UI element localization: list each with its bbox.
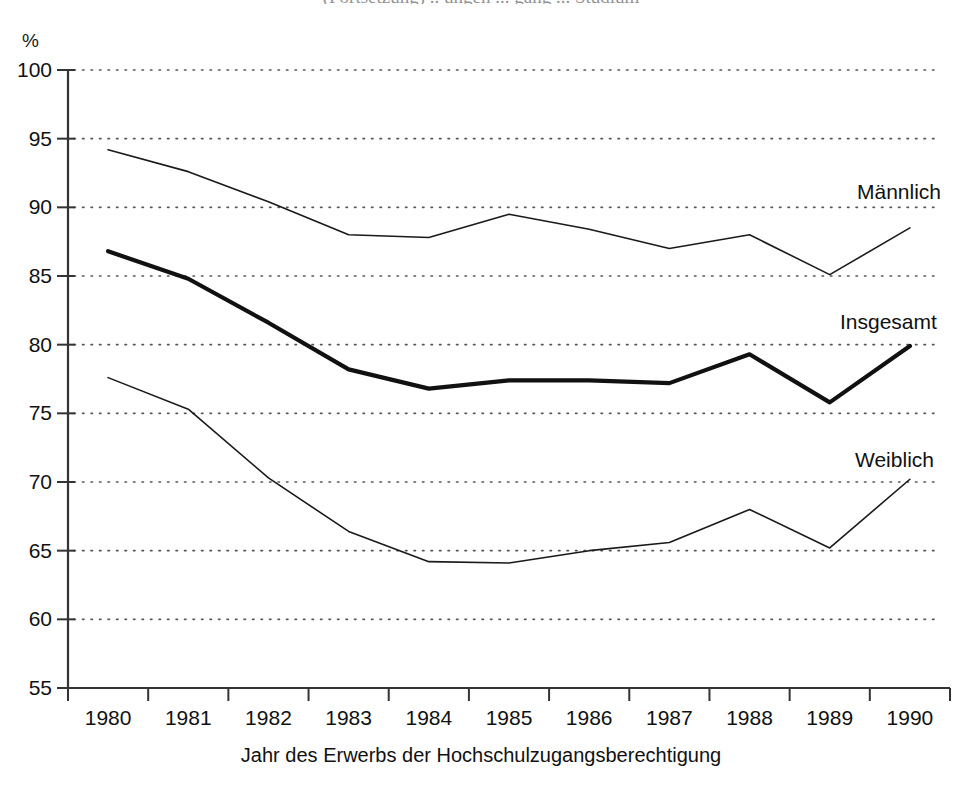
y-tick-label: 95 [0,128,52,149]
y-tick-marks-group [57,70,75,688]
y-tick-label: 60 [0,608,52,629]
x-axis-title: Jahr des Erwerbs der Hochschulzugangsber… [0,744,962,767]
y-tick-label: 100 [0,59,52,80]
y-tick-label: 55 [0,677,52,698]
x-tick-label: 1984 [389,707,469,728]
x-tick-label: 1986 [549,707,629,728]
series-label-mannlich: Männlich [857,180,941,204]
series-label-weiblich: Weiblich [855,448,934,472]
x-tick-label: 1989 [790,707,870,728]
x-tick-label: 1985 [469,707,549,728]
series-line-weiblich [108,378,910,563]
x-tick-label: 1990 [870,707,950,728]
y-axis-unit-label: % [22,30,39,52]
series-line-insgesamt [108,251,910,402]
x-tick-marks-group [68,688,950,701]
series-line-mannlich [108,150,910,275]
series-label-insgesamt: Insgesamt [840,310,937,334]
y-tick-label: 75 [0,402,52,423]
chart-figure: (Fortsetzung) .. ungen ... gang ... Stud… [0,0,962,786]
x-tick-label: 1988 [710,707,790,728]
y-tick-label: 80 [0,334,52,355]
x-tick-label: 1981 [148,707,228,728]
y-tick-label: 70 [0,471,52,492]
x-tick-label: 1987 [629,707,709,728]
clipped-chart-title: (Fortsetzung) .. ungen ... gang ... Stud… [0,0,962,4]
x-tick-label: 1983 [309,707,389,728]
data-series-group [108,150,910,563]
plot-area [0,0,962,786]
y-tick-label: 90 [0,196,52,217]
x-tick-label: 1980 [68,707,148,728]
y-tick-label: 65 [0,540,52,561]
x-tick-label: 1982 [228,707,308,728]
y-tick-label: 85 [0,265,52,286]
